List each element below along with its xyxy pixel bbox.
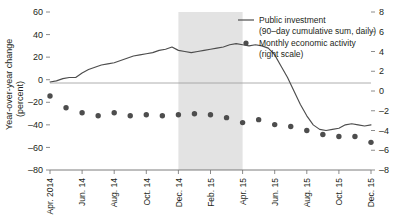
legend-dot-sublabel: (right scale)	[259, 49, 304, 59]
y2-tick-label: 4	[379, 47, 384, 57]
data-point	[320, 132, 325, 137]
x-tick-label: Jun. 15	[270, 178, 280, 206]
y-tick-label: –60	[28, 143, 43, 153]
y2-tick-label: –6	[379, 145, 389, 155]
x-tick-label: Feb. 15	[206, 178, 216, 207]
shaded-period-band	[178, 12, 242, 170]
y-tick-label: 40	[33, 30, 43, 40]
data-point	[352, 134, 357, 139]
data-point	[144, 112, 149, 117]
x-tick-label: Aug. 14	[109, 178, 119, 208]
data-point	[63, 105, 68, 110]
y-tick-label: 0	[38, 75, 43, 85]
data-point	[128, 113, 133, 118]
legend-line-sublabel: (90–day cumulative sum, daily)	[259, 26, 376, 36]
legend-dot-swatch	[243, 40, 248, 45]
y-axis-title-line1: Year-over-year change	[4, 39, 14, 130]
x-tick-label: Aug. 15	[302, 178, 312, 208]
y2-tick-label: 8	[379, 7, 384, 17]
y-axis-left-ticks: 6040200–20–40–60–80	[28, 7, 50, 175]
y-tick-label: –20	[28, 97, 43, 107]
data-point	[368, 140, 373, 145]
data-point	[336, 134, 341, 139]
y-tick-label: –80	[28, 165, 43, 175]
legend-line-label: Public investment	[259, 15, 326, 25]
y2-tick-label: –4	[379, 126, 389, 136]
data-point	[304, 128, 309, 133]
x-tick-label: Jun. 14	[77, 178, 87, 206]
x-tick-label: Apr. 2014	[45, 178, 55, 215]
data-point	[272, 122, 277, 127]
data-point	[224, 115, 229, 120]
y-axis-title-line2: (percent)	[15, 81, 25, 117]
x-tick-label: Dec. 15	[366, 178, 376, 208]
y2-tick-label: 0	[379, 86, 384, 96]
data-point	[47, 93, 52, 98]
x-axis-ticks: Apr. 2014Jun. 14Aug. 14Oct. 14Dec. 14Feb…	[45, 170, 376, 214]
y-tick-label: –40	[28, 120, 43, 130]
y2-tick-label: 6	[379, 27, 384, 37]
y-tick-label: 60	[33, 7, 43, 17]
data-point	[95, 113, 100, 118]
chart-container: 6040200–20–40–60–80 86420–2–4–6–8 Apr. 2…	[0, 0, 411, 221]
data-point	[208, 112, 213, 117]
data-point	[288, 124, 293, 129]
data-point	[160, 113, 165, 118]
legend-dot-label: Monthly economic activity	[259, 38, 357, 48]
x-tick-label: Oct. 14	[142, 178, 152, 206]
data-point	[256, 117, 261, 122]
data-point	[192, 111, 197, 116]
y2-tick-label: –2	[379, 106, 389, 116]
data-point	[176, 112, 181, 117]
y2-tick-label: –8	[379, 165, 389, 175]
data-point	[112, 110, 117, 115]
chart-canvas: 6040200–20–40–60–80 86420–2–4–6–8 Apr. 2…	[0, 0, 411, 221]
y-tick-label: 20	[33, 52, 43, 62]
data-point	[79, 110, 84, 115]
chart-legend: Public investment (90–day cumulative sum…	[238, 15, 376, 59]
data-point	[240, 120, 245, 125]
y2-tick-label: 2	[379, 66, 384, 76]
x-tick-label: Apr. 15	[238, 178, 248, 205]
x-tick-label: Oct. 15	[334, 178, 344, 206]
x-tick-label: Dec. 14	[174, 178, 184, 208]
